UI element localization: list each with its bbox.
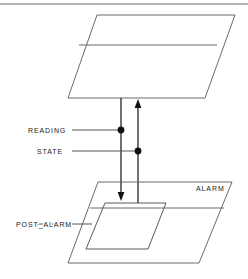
post-alarm-plane-outline <box>86 203 166 249</box>
alarm-plane-outline <box>68 182 232 263</box>
reading-flow-arrowhead <box>118 192 125 201</box>
reading-signal[interactable]: READING <box>28 127 124 134</box>
post-alarm-plane[interactable] <box>86 203 166 249</box>
state-flow-arrowhead <box>135 99 142 108</box>
upper-plane[interactable] <box>68 15 235 98</box>
reading-label: READING <box>28 127 66 134</box>
alarm-plane[interactable]: ALARM <box>68 182 232 263</box>
post-alarm-signal[interactable]: POST_ALARM <box>15 221 92 229</box>
reading-flow-arrow[interactable] <box>118 98 125 201</box>
post-alarm-label: POST_ALARM <box>16 221 72 229</box>
state-junction-dot <box>135 148 142 155</box>
reading-junction-dot <box>118 127 125 134</box>
diagram-canvas: READING STATE ALARM POST_ALARM <box>0 0 248 279</box>
state-label: STATE <box>37 148 63 155</box>
upper-plane-outline <box>68 15 235 98</box>
layered-block-diagram: READING STATE ALARM POST_ALARM <box>0 0 248 279</box>
state-signal[interactable]: STATE <box>37 148 141 155</box>
alarm-label: ALARM <box>196 185 225 192</box>
